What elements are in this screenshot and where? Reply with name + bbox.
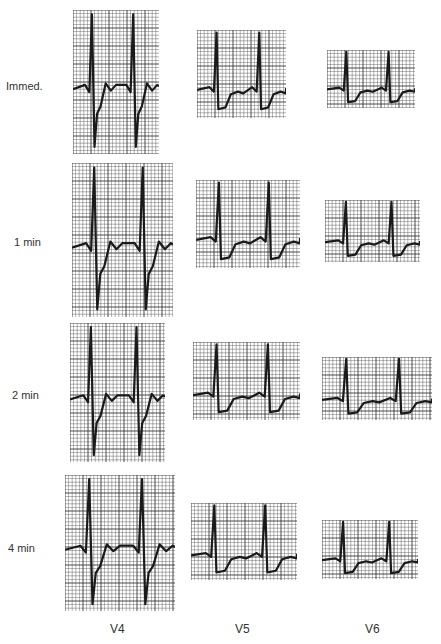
column-label-v5: V5	[235, 622, 250, 636]
ecg-panel-v6-immed	[327, 50, 415, 108]
row-label-immed: Immed.	[6, 80, 43, 92]
ecg-panel-v5-4-min	[191, 503, 297, 580]
row-label-4min: 4 min	[8, 542, 35, 554]
ecg-panel-v5-1-min	[196, 180, 300, 268]
ecg-panel-v5-2-min	[193, 342, 300, 420]
column-label-v6: V6	[365, 622, 380, 636]
ecg-panel-v6-2-min	[322, 357, 432, 420]
ecg-panel-v4-2-min	[70, 323, 165, 462]
ecg-panel-v6-1-min	[325, 200, 420, 262]
column-label-v4: V4	[110, 622, 125, 636]
ecg-panel-v4-1-min	[72, 163, 173, 317]
ecg-panel-v4-4-min	[65, 475, 175, 611]
ecg-panel-v5-immed	[197, 30, 286, 118]
ecg-panel-v4-immed	[73, 10, 159, 154]
row-label-1min: 1 min	[14, 236, 41, 248]
row-label-2min: 2 min	[12, 389, 39, 401]
ecg-panel-v6-4-min	[322, 520, 418, 579]
